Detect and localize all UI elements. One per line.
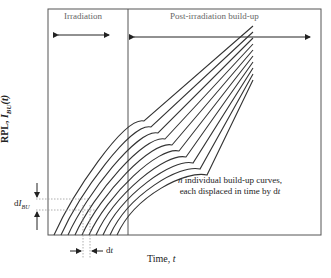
x-axis-label: Time, t (147, 253, 176, 264)
diagram-canvas (0, 0, 331, 278)
build-up-curve (89, 56, 253, 235)
curves-note: n individual build-up curves, each displ… (178, 175, 282, 197)
dI-label: dIBU (14, 198, 30, 210)
build-up-curve (61, 32, 253, 235)
build-up-curve (82, 50, 253, 235)
irradiation-label: Irradiation (64, 11, 102, 21)
build-up-curve (54, 26, 253, 235)
dt-label: dt (106, 245, 113, 255)
build-up-curve (117, 80, 253, 235)
y-axis-label: RPL, IBU(t) (0, 95, 13, 143)
post-irradiation-label: Post-irradiation build-up (170, 11, 259, 21)
plot-frame (48, 9, 321, 235)
build-up-curves (54, 26, 253, 235)
build-up-curve (75, 44, 253, 235)
